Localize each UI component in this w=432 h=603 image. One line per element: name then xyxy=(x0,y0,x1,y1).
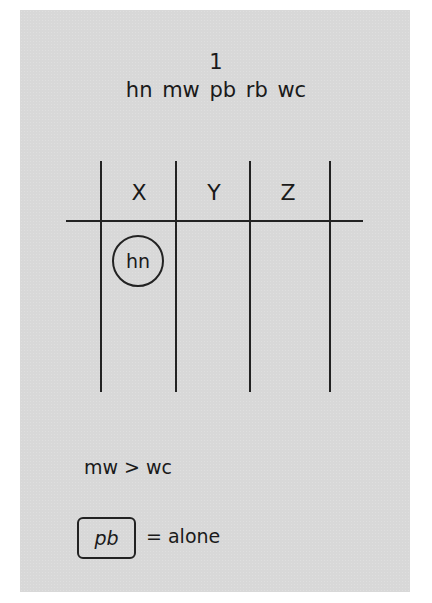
placed-entity-label: hn xyxy=(126,250,150,272)
rule-alone: = alone xyxy=(146,527,220,546)
column-header-y: Y xyxy=(177,182,251,204)
diagram-stage: 1 hn mw pb rb wc X Y Z hn mw > wc pb = a… xyxy=(0,0,432,603)
column-header-x: X xyxy=(102,182,176,204)
placed-entity-circle: hn xyxy=(112,235,164,287)
puzzle-number: 1 xyxy=(0,52,432,73)
grid-divider-4 xyxy=(329,161,331,392)
entity-list: hn mw pb rb wc xyxy=(0,80,432,101)
boxed-entity-label: pb xyxy=(94,527,118,549)
column-header-z: Z xyxy=(251,182,325,204)
grid-header-line xyxy=(66,220,363,222)
rule-boxed-entity: pb xyxy=(77,517,136,559)
rule-ordering: mw > wc xyxy=(84,458,172,477)
